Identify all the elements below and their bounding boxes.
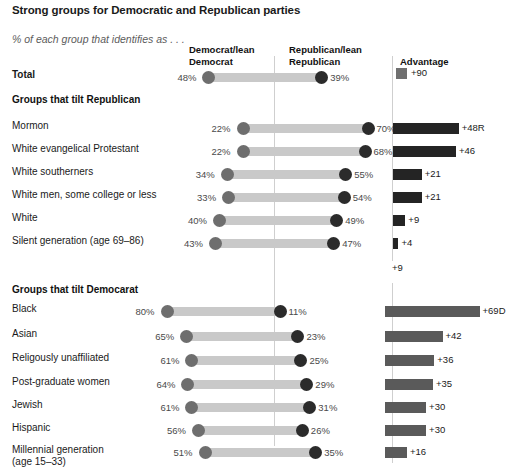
republican-value: 31%: [318, 402, 337, 413]
advantage-label: +69D: [483, 305, 506, 316]
row-label: Post-graduate women: [12, 376, 110, 388]
democrat-value: 51%: [141, 447, 193, 458]
democrat-dot: [237, 145, 250, 158]
dumbbell-connector: [192, 356, 301, 365]
table-row: White evangelical Protestant22%68%+46: [0, 140, 504, 162]
page-subtitle: % of each group that identifies as . . .: [12, 33, 185, 45]
democrat-value: 33%: [164, 192, 216, 203]
table-row: Silent generation (age 69–86)43%47%+4: [0, 232, 504, 254]
row-label: Religously unaffiliated: [12, 352, 109, 364]
row-label: White southerners: [12, 166, 93, 178]
democrat-value: 64%: [123, 379, 175, 390]
republican-value: 49%: [345, 215, 364, 226]
republican-value: 68%: [374, 146, 393, 157]
dumbbell-connector: [192, 403, 310, 412]
table-row: White men, some college or less33%54%+21: [0, 186, 504, 208]
advantage-bar: [385, 425, 426, 436]
democrat-dot: [213, 214, 226, 227]
advantage-label: +21: [425, 191, 441, 202]
advantage-label: +21: [425, 168, 441, 179]
row-label: Total: [12, 69, 35, 81]
republican-dot: [339, 168, 352, 181]
republican-value: 55%: [354, 169, 373, 180]
advantage-label: +35: [436, 378, 452, 389]
advantage-bar: [385, 355, 434, 366]
advantage-bar: [393, 169, 422, 180]
table-row: Black80%11%+69D: [0, 300, 504, 322]
dumbbell-connector: [198, 426, 302, 435]
table-row: White southerners34%55%+21: [0, 163, 504, 185]
republican-dot: [359, 145, 372, 158]
table-row: Total48%39%: [0, 66, 504, 88]
table-row: Mormon22%70%+48R: [0, 117, 504, 139]
row-label: Black: [12, 303, 36, 315]
republican-dot: [327, 237, 340, 250]
democrat-value: 56%: [134, 425, 186, 436]
advantage-label: +42: [446, 330, 462, 341]
advantage-label: +9: [408, 214, 419, 225]
democrat-dot: [221, 168, 234, 181]
republican-value: 25%: [309, 355, 328, 366]
table-row: Jewish61%31%+30: [0, 396, 504, 418]
stray-advantage-label: +9: [392, 262, 403, 273]
column-header-republican: Republican/lean Republican: [289, 44, 384, 67]
democrat-value: 80%: [103, 306, 155, 317]
democrat-value: 61%: [127, 355, 179, 366]
advantage-label: +30: [429, 424, 445, 435]
table-row: Asian65%23%+42: [0, 325, 504, 347]
republican-dot: [338, 191, 351, 204]
dumbbell-connector: [167, 307, 280, 316]
democrat-dot: [185, 354, 198, 367]
democrat-value: 34%: [163, 169, 215, 180]
advantage-bar: [393, 238, 398, 249]
advantage-label: +46: [459, 145, 475, 156]
republican-value: 29%: [315, 379, 334, 390]
republican-value: 39%: [330, 72, 349, 83]
dumbbell-connector: [188, 380, 307, 389]
advantage-bar: [393, 123, 459, 134]
section-header: Groups that tilt Democarat: [12, 284, 138, 295]
democrat-dot: [199, 446, 212, 459]
table-row: White40%49%+9: [0, 209, 504, 231]
democrat-value: 65%: [122, 331, 174, 342]
advantage-bar: [393, 192, 422, 203]
republican-dot: [362, 122, 375, 135]
dumbbell-connector: [205, 448, 316, 457]
democrat-value: 22%: [179, 123, 231, 134]
republican-dot: [300, 378, 313, 391]
republican-dot: [303, 401, 316, 414]
table-row: Millennial generation (age 15–33)51%35%+…: [0, 441, 504, 463]
democrat-dot: [209, 237, 222, 250]
dumbbell-connector: [219, 216, 336, 225]
row-label: Silent generation (age 69–86): [12, 235, 144, 247]
row-label: White: [12, 212, 38, 224]
republican-dot: [274, 305, 287, 318]
row-label: Millennial generation (age 15–33): [12, 444, 104, 468]
page-title: Strong groups for Democratic and Republi…: [12, 3, 312, 17]
advantage-bar: [385, 331, 443, 342]
advantage-label: +16: [410, 446, 426, 457]
democrat-value: 43%: [151, 238, 203, 249]
dumbbell-connector: [243, 147, 365, 156]
advantage-bar: [385, 379, 433, 390]
democrat-dot: [192, 424, 205, 437]
democrat-dot: [185, 401, 198, 414]
republican-value: 11%: [289, 306, 307, 317]
democrat-value: 48%: [144, 72, 196, 83]
democrat-dot: [180, 330, 193, 343]
row-label: White men, some college or less: [12, 189, 157, 201]
republican-dot: [330, 214, 343, 227]
dumbbell-connector: [209, 73, 322, 82]
republican-dot: [315, 71, 328, 84]
advantage-bar: [385, 402, 426, 413]
dumbbell-connector: [187, 332, 298, 341]
section-header: Groups that tilt Republican: [12, 94, 140, 105]
advantage-bar: [385, 447, 407, 458]
table-row: Hispanic56%26%+30: [0, 419, 504, 441]
republican-value: 35%: [324, 447, 343, 458]
row-label: Jewish: [12, 399, 43, 411]
table-row: Religously unaffiliated61%25%+36: [0, 349, 504, 371]
dumbbell-connector: [229, 193, 345, 202]
democrat-dot: [181, 378, 194, 391]
